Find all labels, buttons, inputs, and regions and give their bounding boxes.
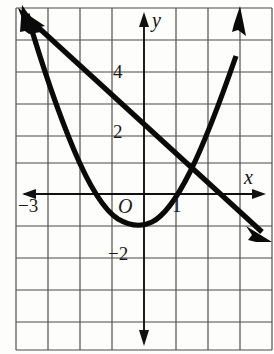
y-axis-label: y: [152, 10, 161, 30]
y-tick-label-4: 4: [113, 62, 123, 81]
parabola-arrow-upper-right: [232, 6, 246, 36]
origin-label: O: [118, 196, 132, 216]
x-axis-arrow-right: [252, 189, 266, 199]
coordinate-plane-graph: y x 4 2 −2 −3 1 O: [0, 0, 274, 354]
graph-canvas: [0, 0, 274, 354]
x-tick-label-1: 1: [172, 196, 182, 215]
y-axis-arrow-down: [139, 330, 149, 346]
line-curve: [18, 8, 272, 242]
y-tick-label-neg-2: −2: [108, 244, 128, 263]
x-axis-label: x: [244, 167, 253, 187]
y-axis: [139, 12, 149, 346]
x-tick-label-neg-3: −3: [18, 196, 38, 215]
y-axis-arrow-up: [139, 12, 149, 27]
y-tick-label-2: 2: [113, 122, 123, 141]
